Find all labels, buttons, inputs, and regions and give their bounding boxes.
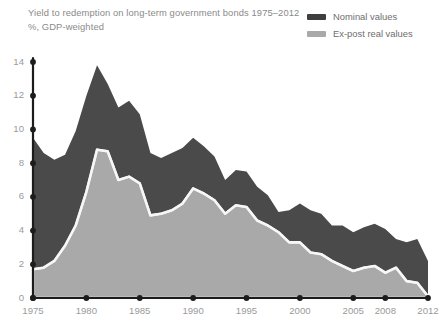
y-axis-tick-label: 8 xyxy=(4,157,24,168)
x-axis-tick-label: 1990 xyxy=(173,305,213,316)
y-axis-tick-label: 2 xyxy=(4,258,24,269)
y-axis-tick-label: 0 xyxy=(4,292,24,303)
y-axis-tick-label: 6 xyxy=(4,190,24,201)
x-axis-tick-dot xyxy=(425,295,431,301)
x-axis-tick-label: 2000 xyxy=(280,305,320,316)
plot-area xyxy=(0,0,447,332)
y-axis-tick-dot xyxy=(30,93,36,99)
x-axis-tick-dot xyxy=(244,295,250,301)
x-axis-tick-label: 2008 xyxy=(365,305,405,316)
chart-container: Yield to redemption on long-term governm… xyxy=(0,0,447,332)
y-axis-tick-dot xyxy=(30,59,36,65)
y-axis-tick-dot xyxy=(30,228,36,234)
x-axis-tick-label: 1980 xyxy=(66,305,106,316)
x-axis-tick-dot xyxy=(382,295,388,301)
y-axis-tick-label: 12 xyxy=(4,89,24,100)
y-axis-tick-dot xyxy=(30,261,36,267)
x-axis-tick-dot xyxy=(190,295,196,301)
x-axis-tick-label: 1995 xyxy=(227,305,267,316)
x-axis-tick-label: 1985 xyxy=(120,305,160,316)
y-axis-tick-label: 14 xyxy=(4,56,24,67)
y-axis-tick-label: 10 xyxy=(4,123,24,134)
x-axis-tick-dot xyxy=(137,295,143,301)
y-axis-tick-label: 4 xyxy=(4,224,24,235)
x-axis-tick-dot xyxy=(30,295,36,301)
x-axis-tick-dot xyxy=(83,295,89,301)
x-axis-tick-label: 1975 xyxy=(13,305,53,316)
x-axis-tick-dot xyxy=(350,295,356,301)
x-axis-tick-label: 2012 xyxy=(408,305,447,316)
y-axis-tick-dot xyxy=(30,160,36,166)
x-axis-tick-dot xyxy=(297,295,303,301)
y-axis-tick-dot xyxy=(30,194,36,200)
y-axis-tick-dot xyxy=(30,127,36,133)
